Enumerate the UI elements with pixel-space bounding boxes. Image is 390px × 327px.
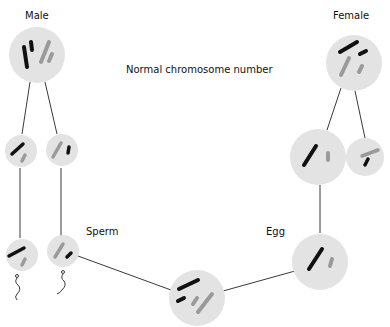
chromosome-zygote-short-dark <box>178 298 184 301</box>
label-male: Male <box>25 10 49 21</box>
line-egg-to-zygote <box>223 271 295 291</box>
label-sperm: Sperm <box>86 226 119 237</box>
line-male-to-daughter-2 <box>45 82 57 134</box>
line-female-to-daughter-1 <box>327 88 341 130</box>
cell-sperm-2 <box>47 235 79 267</box>
chromosome-male-short-light <box>49 54 52 61</box>
sperm-tail-1 <box>16 278 20 300</box>
cell-female-daughter-1 <box>290 129 346 185</box>
sperm-tail-2 <box>57 274 65 294</box>
sperm-tail-knot-1 <box>16 275 19 278</box>
cell-polar-body <box>346 138 384 176</box>
chromosome-md2-dark <box>68 147 69 153</box>
sperm-tail-knot-2 <box>62 271 65 274</box>
line-male-to-daughter-1 <box>22 82 30 134</box>
cell-male-parent <box>9 27 65 83</box>
chromosome-egg-light <box>330 259 332 266</box>
label-female: Female <box>333 10 369 21</box>
chromosome-female-short-light <box>359 66 362 72</box>
chromosome-male-short-dark <box>31 42 32 50</box>
meiosis-diagram <box>0 0 390 327</box>
line-female-to-polar-body <box>355 91 365 138</box>
cell-male-daughter-2 <box>46 134 78 166</box>
chromosome-female-short-dark <box>360 51 366 54</box>
cell-egg <box>292 234 348 290</box>
diagram-title: Normal chromosome number <box>126 64 273 75</box>
label-egg: Egg <box>266 226 285 237</box>
line-sperm-to-zygote <box>78 256 171 290</box>
